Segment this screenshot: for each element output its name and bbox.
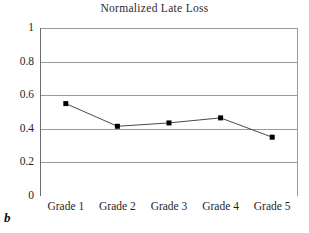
x-tick-label: Grade 5 xyxy=(246,199,298,215)
data-point-marker xyxy=(167,120,172,125)
x-axis: Grade 1 Grade 2 Grade 3 Grade 4 Grade 5 xyxy=(40,199,298,215)
figure-panel: Normalized Late Loss 1 0.8 0.6 0.4 0.2 0… xyxy=(0,0,309,233)
plot-area xyxy=(40,28,298,196)
y-tick-label: 0.2 xyxy=(0,157,34,169)
data-line xyxy=(66,104,272,138)
y-tick-label: 0 xyxy=(0,190,34,202)
gridlines xyxy=(40,29,298,197)
data-point-marker xyxy=(218,115,223,120)
y-tick-label: 0.8 xyxy=(0,56,34,68)
data-point-marker xyxy=(63,101,68,106)
data-markers xyxy=(63,101,274,140)
y-tick-label: 0.6 xyxy=(0,89,34,101)
panel-label: b xyxy=(4,210,11,226)
x-tick-label: Grade 4 xyxy=(195,199,247,215)
x-tick-label: Grade 3 xyxy=(143,199,195,215)
y-tick-label: 1 xyxy=(0,22,34,34)
line-chart-svg xyxy=(40,28,298,196)
chart-title: Normalized Late Loss xyxy=(0,2,309,14)
data-point-marker xyxy=(270,135,275,140)
x-tick-label: Grade 2 xyxy=(92,199,144,215)
data-point-marker xyxy=(115,124,120,129)
y-axis: 1 0.8 0.6 0.4 0.2 0 xyxy=(0,28,34,196)
axis-ticks xyxy=(40,29,298,197)
x-tick-label: Grade 1 xyxy=(40,199,92,215)
y-tick-label: 0.4 xyxy=(0,123,34,135)
